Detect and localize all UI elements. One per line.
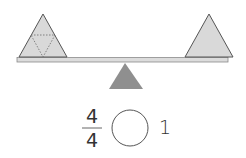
fraction-numerator: 4 [86,107,98,126]
answer-circle[interactable] [112,110,148,146]
beam [17,58,228,63]
left-triangle [19,14,67,57]
right-value: 1 [159,118,171,137]
fraction-denominator: 4 [86,131,98,150]
balance-scale [0,0,246,158]
fulcrum [109,63,143,89]
right-triangle [185,14,233,57]
